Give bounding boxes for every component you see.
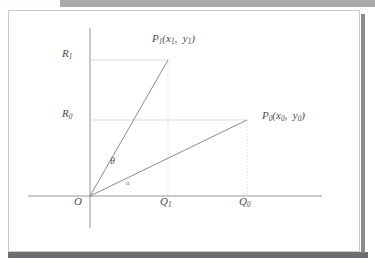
angle-label-theta: θ (110, 156, 115, 166)
x-tick-label-Q0: Q0 (239, 196, 251, 209)
scan-bar-top (60, 0, 375, 7)
figure-panel (8, 10, 360, 252)
point-label-P1: P1(x1, y1) (152, 33, 195, 46)
figure-page: P1(x1, y1) P0(x0, y0) R1 R0 O Q1 Q0 θ α (0, 0, 375, 263)
y-tick-label-R0: R0 (62, 108, 72, 121)
scan-bar-bottom (8, 252, 368, 258)
angle-label-alpha: α (126, 180, 130, 187)
x-tick-label-Q1: Q1 (160, 196, 172, 209)
origin-label: O (74, 196, 82, 207)
panel-shadow (361, 14, 365, 253)
point-label-P0: P0(x0, y0) (262, 110, 305, 123)
scan-edge-left (0, 0, 60, 7)
y-tick-label-R1: R1 (62, 48, 72, 61)
